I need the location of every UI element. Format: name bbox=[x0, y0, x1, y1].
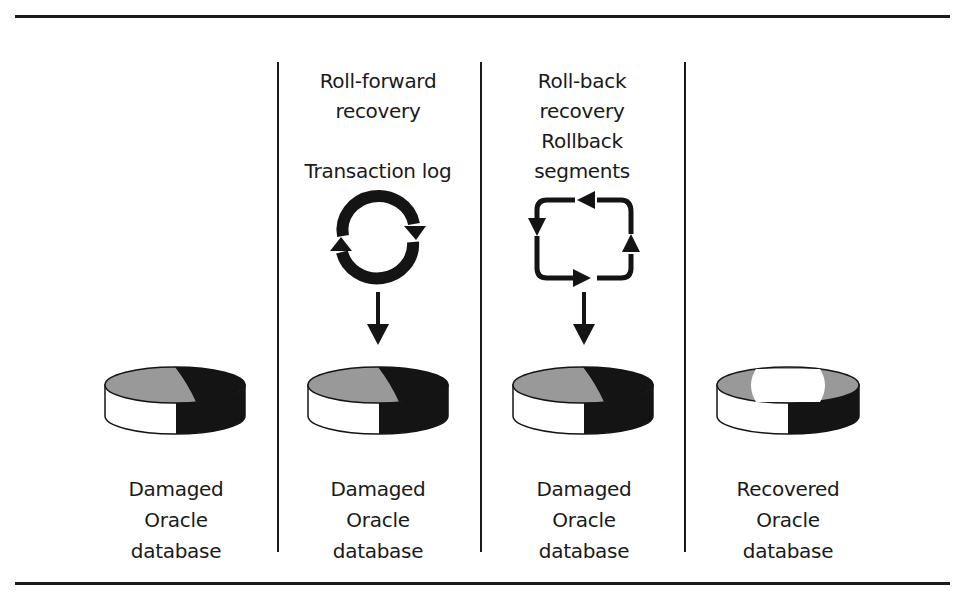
recovered-database-disk-icon bbox=[716, 366, 860, 438]
column-divider-1 bbox=[277, 62, 279, 552]
roll-back-recovery-heading: Roll-back recovery bbox=[487, 66, 677, 126]
top-rule bbox=[15, 15, 950, 18]
column-divider-3 bbox=[684, 62, 686, 552]
recovered-database-caption: Recovered Oracle database bbox=[698, 474, 878, 567]
damaged-database-disk-icon bbox=[512, 366, 654, 438]
transaction-log-label: Transaction log bbox=[283, 156, 473, 186]
damaged-database-caption: Damaged Oracle database bbox=[288, 474, 468, 567]
rectangular-cycle-arrows-icon bbox=[527, 194, 643, 290]
rollback-segments-label: Rollback segments bbox=[487, 126, 677, 186]
down-arrow-icon bbox=[572, 292, 596, 346]
roll-forward-recovery-heading: Roll-forward recovery bbox=[283, 66, 473, 126]
column-divider-2 bbox=[480, 62, 482, 552]
down-arrow-icon bbox=[366, 292, 390, 346]
damaged-database-caption: Damaged Oracle database bbox=[86, 474, 266, 567]
damaged-database-disk-icon bbox=[307, 366, 449, 438]
damaged-database-caption: Damaged Oracle database bbox=[494, 474, 674, 567]
damaged-database-disk-icon bbox=[104, 366, 246, 438]
circular-arrows-icon bbox=[326, 192, 430, 284]
bottom-rule bbox=[15, 582, 950, 585]
